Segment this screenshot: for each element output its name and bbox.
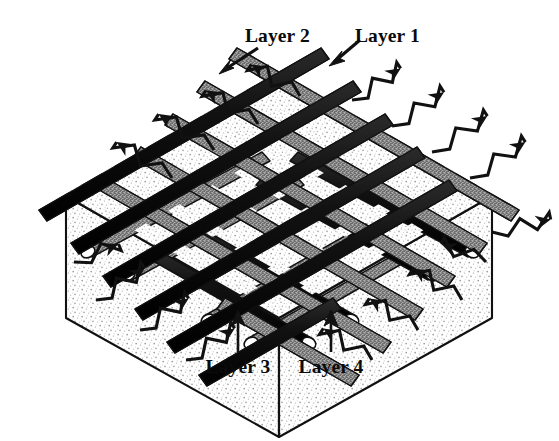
figure-canvas: Layer 2 Layer 1 Layer 3 Layer 4: [0, 0, 559, 441]
layer-4-label: Layer 4: [299, 356, 364, 377]
layer-3-label: Layer 3: [206, 356, 271, 377]
layer-2-label: Layer 2: [245, 25, 310, 46]
woven-photonic-crystal-figure: Layer 2 Layer 1 Layer 3 Layer 4: [0, 0, 559, 441]
layer-1-label: Layer 1: [355, 25, 420, 46]
